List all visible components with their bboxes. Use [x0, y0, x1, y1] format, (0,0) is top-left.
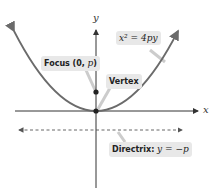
vertex-text: Vertex	[109, 77, 139, 86]
directrix-label: Directrix: y = −p	[109, 142, 192, 157]
focus-coords: (0,	[73, 59, 88, 68]
focus-point	[93, 89, 98, 94]
vertex-point	[93, 108, 98, 113]
focus-leader	[85, 68, 95, 90]
x-axis-label: x	[203, 104, 209, 115]
focus-text: Focus	[44, 59, 70, 68]
equation-rhs: py	[147, 33, 158, 43]
directrix-text: Directrix:	[112, 145, 154, 154]
directrix-eq: y = −p	[157, 144, 189, 154]
directrix-leader	[118, 132, 125, 142]
focus-label: Focus (0, p)	[41, 56, 100, 71]
vertex-leader	[98, 88, 110, 109]
focus-close: )	[93, 59, 97, 68]
equation-label: x² = 4py	[116, 31, 161, 45]
equation-leader	[150, 50, 165, 62]
y-axis-label: y	[93, 12, 99, 23]
parabola-diagram	[0, 0, 220, 196]
equation-lhs: x² = 4	[119, 33, 147, 43]
vertex-label: Vertex	[106, 74, 142, 89]
